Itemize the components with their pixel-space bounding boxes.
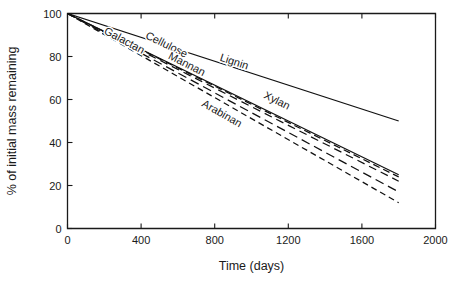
x-tick-label: 2000 xyxy=(423,234,447,246)
series-label-lignin: Lignin xyxy=(219,51,251,71)
y-tick-label: 20 xyxy=(49,180,61,192)
y-tick-label: 100 xyxy=(43,8,61,20)
chart-figure: 0400800120016002000020406080100Time (day… xyxy=(0,0,457,283)
y-axis-title: % of initial mass remaining xyxy=(5,47,19,196)
decay-line-chart: 0400800120016002000020406080100Time (day… xyxy=(0,0,457,283)
x-tick-label: 1200 xyxy=(276,234,300,246)
y-tick-label: 0 xyxy=(55,223,61,235)
y-tick-label: 40 xyxy=(49,137,61,149)
x-axis: 0400800120016002000 xyxy=(64,14,447,246)
y-tick-label: 80 xyxy=(49,51,61,63)
x-tick-label: 0 xyxy=(64,234,70,246)
y-tick-label: 60 xyxy=(49,94,61,106)
x-axis-title: Time (days) xyxy=(219,259,285,273)
series-label-xylan: Xylan xyxy=(262,89,292,112)
series-label-arabinan: Arabinan xyxy=(200,97,244,129)
x-tick-label: 1600 xyxy=(350,234,374,246)
x-tick-label: 400 xyxy=(132,234,150,246)
series-label-galactan: Galactan xyxy=(102,24,146,55)
x-tick-label: 800 xyxy=(206,234,224,246)
